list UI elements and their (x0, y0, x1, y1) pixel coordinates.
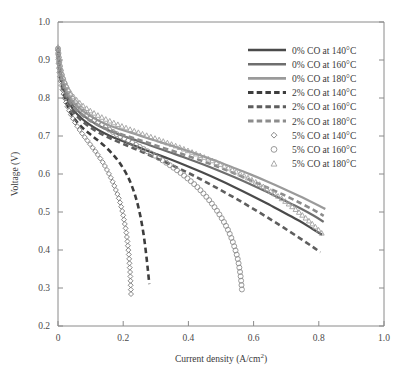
x-axis-title: Current density (A/cm2) (175, 352, 267, 365)
y-tick-label: 0.9 (38, 55, 50, 65)
data-marker-triangle (136, 130, 141, 135)
legend-item[interactable]: 0% CO at 180°C (248, 74, 356, 84)
legend-label: 2% CO at 160°C (292, 102, 356, 112)
y-tick-label: 0.5 (38, 207, 50, 217)
data-marker-triangle (128, 127, 133, 132)
y-axis-title: Voltage (V) (10, 152, 21, 196)
legend-item[interactable]: 2% CO at 160°C (248, 102, 356, 112)
legend-label: 0% CO at 140°C (292, 46, 356, 56)
data-marker-circle (204, 194, 209, 199)
data-marker-circle (182, 173, 187, 178)
legend-label: 5% CO at 180°C (292, 159, 356, 169)
data-marker-triangle (119, 124, 124, 129)
x-tick-label: 0.8 (313, 333, 325, 343)
legend-label: 5% CO at 160°C (292, 145, 356, 155)
y-tick-label: 0.4 (38, 245, 50, 255)
y-tick-label: 0.2 (38, 321, 50, 331)
x-axis-ticks (58, 321, 384, 326)
x-axis-tick-labels: 00.20.40.60.81.0 (56, 333, 391, 343)
chart-figure: 0.20.30.40.50.60.70.80.91.0 00.20.40.60.… (0, 0, 408, 381)
x-axis-title-main: Current density (A/cm (175, 354, 261, 365)
data-marker-circle (195, 185, 200, 190)
data-marker-triangle (111, 120, 116, 125)
legend-item[interactable]: 0% CO at 160°C (248, 60, 356, 70)
legend-item[interactable]: 0% CO at 140°C (248, 46, 356, 56)
data-series (58, 47, 324, 215)
y-tick-label: 0.6 (38, 169, 50, 179)
data-marker-diamond (123, 226, 128, 231)
legend-item[interactable]: 5% CO at 160°C (271, 145, 356, 155)
data-series-line (58, 49, 322, 235)
legend-label: 2% CO at 180°C (292, 117, 356, 127)
legend-item[interactable]: 2% CO at 180°C (248, 117, 356, 127)
legend-label: 0% CO at 160°C (292, 60, 356, 70)
data-marker-triangle (313, 224, 318, 229)
data-marker-circle (214, 208, 219, 213)
data-marker-triangle (271, 161, 277, 166)
x-tick-label: 0.6 (248, 333, 260, 343)
data-marker-triangle (132, 128, 137, 133)
legend-item[interactable]: 2% CO at 140°C (248, 88, 356, 98)
y-tick-label: 0.8 (38, 93, 50, 103)
data-marker-diamond (121, 213, 126, 218)
y-axis-tick-labels: 0.20.30.40.50.60.70.80.91.0 (38, 17, 50, 331)
data-marker-circle (192, 182, 197, 187)
data-marker-diamond (124, 230, 129, 235)
data-marker-circle (178, 170, 183, 175)
chart-legend: 0% CO at 140°C0% CO at 160°C0% CO at 180… (248, 46, 356, 170)
x-tick-label: 0.4 (182, 333, 194, 343)
data-marker-diamond (271, 132, 277, 138)
data-marker-circle (209, 201, 214, 206)
data-marker-triangle (103, 117, 108, 122)
legend-item[interactable]: 5% CO at 180°C (271, 159, 356, 169)
y-tick-label: 0.3 (38, 283, 50, 293)
data-marker-diamond (120, 209, 125, 214)
legend-item[interactable]: 5% CO at 140°C (271, 131, 356, 141)
x-tick-label: 1.0 (378, 333, 390, 343)
data-marker-triangle (95, 113, 100, 118)
legend-label: 5% CO at 140°C (292, 131, 356, 141)
data-marker-diamond (121, 217, 126, 222)
data-marker-triangle (107, 118, 112, 123)
data-marker-circle (201, 191, 206, 196)
data-marker-triangle (115, 122, 120, 127)
iv-polarization-chart: 0.20.30.40.50.60.70.80.91.0 00.20.40.60.… (0, 0, 408, 381)
x-axis-title-tail: ) (264, 354, 267, 365)
legend-label: 0% CO at 180°C (292, 74, 356, 84)
data-marker-triangle (124, 125, 129, 130)
x-tick-label: 0 (56, 333, 61, 343)
data-series-line (58, 47, 324, 215)
legend-label: 2% CO at 140°C (292, 88, 356, 98)
data-series-layer (56, 45, 326, 297)
data-marker-diamond (124, 235, 129, 240)
data-marker-circle (207, 198, 212, 203)
data-marker-circle (188, 179, 193, 184)
data-marker-circle (212, 205, 217, 210)
data-marker-circle (271, 147, 277, 153)
data-marker-circle (185, 176, 190, 181)
x-tick-label: 0.2 (117, 333, 129, 343)
data-series (58, 49, 322, 235)
data-marker-diamond (122, 221, 127, 226)
data-marker-triangle (99, 115, 104, 120)
y-tick-label: 0.7 (38, 131, 50, 141)
data-marker-triangle (316, 227, 321, 232)
data-marker-circle (198, 188, 203, 193)
y-tick-label: 1.0 (38, 17, 50, 27)
